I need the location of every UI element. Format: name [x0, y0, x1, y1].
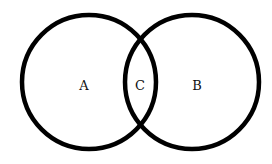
label-a: A	[78, 78, 89, 93]
label-b: B	[192, 78, 202, 93]
label-c: C	[135, 78, 145, 93]
venn-diagram: A C B	[0, 0, 272, 164]
